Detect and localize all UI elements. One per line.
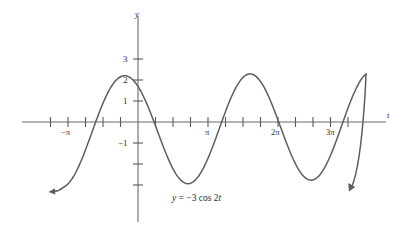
x-tick-label-3pi: 3π bbox=[326, 128, 335, 137]
x-tick-label-neg-pi: −π bbox=[61, 128, 70, 137]
y-tick-label-neg1: −1 bbox=[118, 139, 128, 148]
equation-annotation: y = −3 cos 2t bbox=[172, 193, 221, 203]
y-tick-label-1: 1 bbox=[123, 97, 128, 106]
figure-container: y t 3 2 1 −1 −π π 2π 3π y = −3 cos 2t bbox=[0, 0, 405, 232]
equation-body: = −3 cos 2 bbox=[176, 193, 218, 203]
x-tick-label-pi: π bbox=[205, 128, 209, 137]
curve-left-arrowhead bbox=[49, 188, 56, 194]
x-axis-label: t bbox=[387, 111, 389, 120]
y-axis-label: y bbox=[135, 10, 139, 19]
x-tick-label-2pi: 2π bbox=[271, 128, 280, 137]
curve-path bbox=[64, 74, 367, 187]
curve-right-tail bbox=[352, 74, 366, 186]
equation-t-symbol: t bbox=[219, 193, 222, 203]
y-tick-label-3: 3 bbox=[123, 55, 128, 64]
y-tick-label-2: 2 bbox=[123, 76, 128, 85]
axes-group bbox=[22, 16, 386, 222]
curve-right-arrowhead bbox=[348, 183, 355, 192]
